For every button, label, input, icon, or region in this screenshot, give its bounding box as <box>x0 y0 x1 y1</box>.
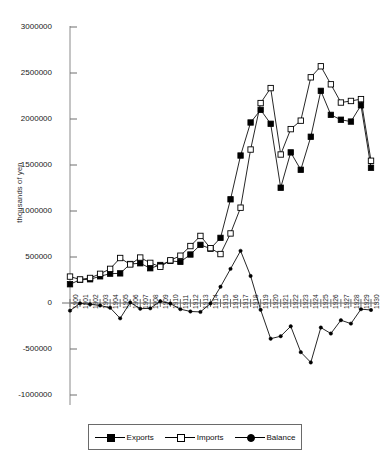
data-point-imports <box>87 275 92 280</box>
data-point-imports <box>238 205 243 210</box>
data-point-imports <box>308 75 313 80</box>
data-point-imports <box>128 262 133 267</box>
data-point-imports <box>228 231 233 236</box>
data-point-imports <box>117 255 122 260</box>
data-point-imports <box>268 85 273 90</box>
legend-item-exports: Exports <box>95 433 154 442</box>
data-point-imports <box>107 266 112 271</box>
data-point-balance <box>239 249 242 252</box>
data-point-balance <box>259 308 262 311</box>
data-point-imports <box>218 251 223 256</box>
data-point-balance <box>269 337 272 340</box>
plot-area <box>0 0 383 468</box>
data-point-exports <box>278 185 283 190</box>
data-point-exports <box>138 261 143 266</box>
data-point-exports <box>348 119 353 124</box>
data-point-balance <box>118 317 121 320</box>
data-point-imports <box>288 126 293 131</box>
data-point-imports <box>368 158 373 163</box>
legend-label: Exports <box>127 433 154 442</box>
data-point-exports <box>268 121 273 126</box>
legend-label: Balance <box>267 433 296 442</box>
data-point-imports <box>148 260 153 265</box>
data-point-balance <box>139 307 142 310</box>
data-point-balance <box>179 307 182 310</box>
data-point-exports <box>318 88 323 93</box>
legend-marker-dot-icon <box>235 433 265 442</box>
data-point-imports <box>258 100 263 105</box>
data-point-balance <box>199 310 202 313</box>
legend-marker-filled-square-icon <box>95 433 125 442</box>
data-point-balance <box>299 350 302 353</box>
legend-item-balance: Balance <box>235 433 296 442</box>
data-point-exports <box>188 252 193 257</box>
data-point-balance <box>78 302 81 305</box>
data-point-exports <box>67 282 72 287</box>
data-point-imports <box>338 100 343 105</box>
data-point-balance <box>149 307 152 310</box>
data-point-balance <box>108 306 111 309</box>
legend-label: Imports <box>197 433 224 442</box>
data-point-balance <box>68 309 71 312</box>
data-point-balance <box>309 361 312 364</box>
data-point-imports <box>138 255 143 260</box>
data-point-imports <box>328 82 333 87</box>
data-point-balance <box>209 302 212 305</box>
data-point-imports <box>77 277 82 282</box>
data-point-exports <box>218 235 223 240</box>
data-point-imports <box>278 152 283 157</box>
data-point-exports <box>228 197 233 202</box>
data-point-imports <box>188 243 193 248</box>
legend-item-imports: Imports <box>165 433 224 442</box>
data-point-exports <box>298 167 303 172</box>
data-point-imports <box>248 147 253 152</box>
data-point-exports <box>328 112 333 117</box>
data-point-balance <box>279 335 282 338</box>
data-point-exports <box>308 134 313 139</box>
data-point-balance <box>339 319 342 322</box>
chart-container: thousands of yen 30000002500000200000015… <box>0 0 383 468</box>
series-line-imports <box>70 66 371 279</box>
data-point-balance <box>219 285 222 288</box>
data-point-imports <box>208 245 213 250</box>
data-point-exports <box>238 153 243 158</box>
data-point-exports <box>368 165 373 170</box>
data-point-balance <box>88 303 91 306</box>
data-point-imports <box>97 271 102 276</box>
data-point-balance <box>98 304 101 307</box>
data-point-exports <box>338 117 343 122</box>
data-point-balance <box>249 274 252 277</box>
data-point-balance <box>289 325 292 328</box>
data-point-balance <box>129 301 132 304</box>
data-point-balance <box>369 308 372 311</box>
chart-legend: ExportsImportsBalance <box>88 424 302 450</box>
data-point-imports <box>198 233 203 238</box>
legend-marker-open-square-icon <box>165 433 195 442</box>
data-point-imports <box>348 98 353 103</box>
data-point-exports <box>358 103 363 108</box>
data-point-balance <box>319 326 322 329</box>
data-point-balance <box>229 267 232 270</box>
data-point-exports <box>198 242 203 247</box>
data-point-exports <box>288 150 293 155</box>
data-point-exports <box>248 120 253 125</box>
data-point-balance <box>159 300 162 303</box>
data-point-balance <box>169 302 172 305</box>
data-point-exports <box>178 259 183 264</box>
data-point-balance <box>349 322 352 325</box>
data-point-imports <box>168 258 173 263</box>
data-point-balance <box>189 310 192 313</box>
data-point-exports <box>148 266 153 271</box>
data-point-imports <box>158 264 163 269</box>
data-point-imports <box>358 96 363 101</box>
data-point-exports <box>117 271 122 276</box>
data-point-imports <box>318 64 323 69</box>
data-point-imports <box>178 253 183 258</box>
data-point-balance <box>329 332 332 335</box>
data-point-imports <box>67 274 72 279</box>
data-point-balance <box>359 307 362 310</box>
data-point-imports <box>298 118 303 123</box>
